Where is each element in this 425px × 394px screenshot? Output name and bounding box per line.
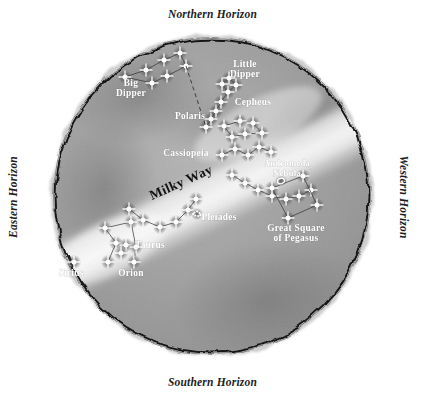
pleiades-star (199, 212, 201, 214)
paper-grain (0, 0, 425, 394)
pleiades-star (194, 215, 196, 217)
star-chart: Northern Horizon Southern Horizon Easter… (0, 0, 425, 394)
orion-label: Orion (118, 268, 144, 278)
cassiopeia-label: Cassiopeia (163, 148, 209, 158)
pleiades-star (196, 210, 198, 212)
pleiades-label: Pleiades (201, 212, 236, 222)
sirius-label: Sirius (58, 268, 83, 278)
polaris-label: Polaris (175, 111, 205, 121)
pleiades-star (197, 215, 199, 217)
great-square-of-pegasus-label: Great Squareof Pegasus (267, 223, 325, 243)
little-dipper-label: LittleDipper (230, 59, 260, 79)
cepheus-label: Cepheus (235, 97, 272, 107)
sky-disc: BigDipperLittleDipperPolarisCepheusCassi… (0, 0, 425, 394)
pleiades-star (192, 213, 194, 215)
taurus-label: Taurus (135, 240, 165, 250)
